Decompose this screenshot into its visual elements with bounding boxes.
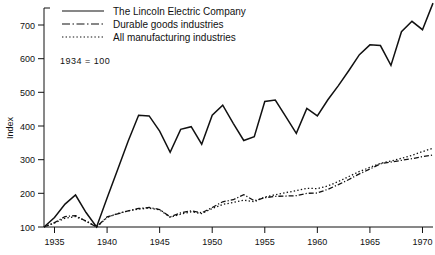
plot-axes-lines — [44, 8, 433, 227]
x-tick-label: 1970 — [412, 237, 432, 247]
x-tick-label: 1950 — [202, 237, 222, 247]
y-tick-label: 500 — [20, 88, 35, 98]
legend-label-lincoln-electric: The Lincoln Electric Company — [113, 6, 246, 17]
base-year-note: 1934 = 100 — [60, 56, 110, 66]
chart-figure: Index 700 600 500 400 300 200 100 193519… — [0, 0, 435, 255]
y-axis-tick-labels: 700 600 500 400 300 200 100 — [20, 21, 35, 233]
series-line-2 — [44, 148, 433, 227]
x-tick-label: 1960 — [307, 237, 327, 247]
chart-legend: The Lincoln Electric Company Durable goo… — [62, 6, 246, 43]
y-tick-label: 300 — [20, 155, 35, 165]
x-axis-ticks — [55, 227, 423, 233]
legend-label-durable-goods: Durable goods industries — [113, 19, 224, 30]
x-tick-label: 1940 — [97, 237, 117, 247]
series-line-1 — [44, 155, 433, 227]
line-chart-canvas: Index 700 600 500 400 300 200 100 193519… — [0, 0, 435, 255]
legend-label-all-manufacturing: All manufacturing industries — [113, 32, 236, 43]
y-tick-label: 600 — [20, 54, 35, 64]
x-tick-label: 1965 — [360, 237, 380, 247]
y-tick-label: 400 — [20, 122, 35, 132]
y-tick-label: 200 — [20, 189, 35, 199]
x-tick-label: 1945 — [150, 237, 170, 247]
y-axis-title: Index — [5, 116, 15, 139]
y-tick-label: 700 — [20, 21, 35, 31]
y-tick-label: 100 — [20, 223, 35, 233]
x-tick-label: 1935 — [44, 237, 64, 247]
x-tick-label: 1955 — [255, 237, 275, 247]
x-axis-tick-labels: 19351940194519501955196019651970 — [44, 237, 432, 247]
